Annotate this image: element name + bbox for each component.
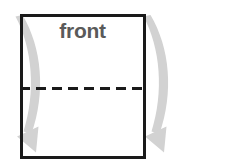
- paper-folding-figure: front: [0, 0, 228, 168]
- right-fold-arrow-body: [144, 15, 169, 134]
- front-label: front: [20, 19, 145, 43]
- right-fold-arrow: [144, 15, 169, 153]
